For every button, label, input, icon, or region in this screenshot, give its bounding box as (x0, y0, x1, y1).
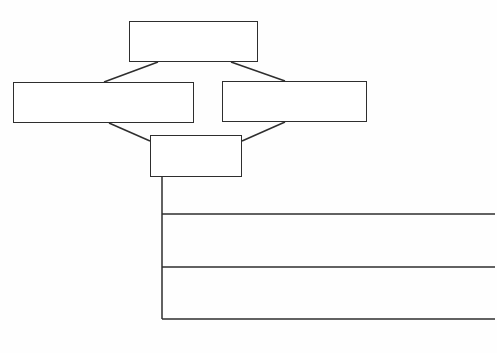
bottom-box (150, 135, 242, 177)
connector-top-to-left (104, 62, 158, 82)
connector-left-to-bottom (109, 123, 150, 141)
right-box (222, 81, 367, 122)
top-box (129, 21, 258, 62)
connector-right-to-bottom (242, 122, 285, 141)
connector-top-to-right (231, 62, 285, 81)
left-box (13, 82, 194, 123)
diagram-canvas (0, 0, 497, 353)
